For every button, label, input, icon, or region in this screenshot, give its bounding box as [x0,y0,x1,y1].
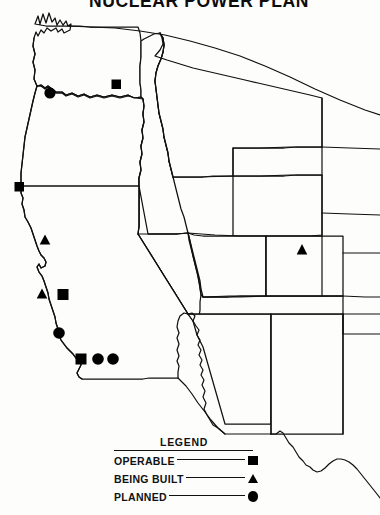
colorado-south-nm-north [188,296,343,314]
state-wyoming [233,175,322,236]
legend-row-planned: PLANNED [114,488,260,505]
legend-title: LEGEND [114,436,260,448]
legend-row-operable: OPERABLE [114,452,260,469]
legend: LEGEND OPERABLE BEING BUILT PLANNED [114,436,260,505]
legend-divider [114,450,253,451]
marker-planned [53,327,65,339]
state-oregon [21,86,144,186]
marker-operable [58,289,69,300]
legend-label-being-built: BEING BUILT [114,473,184,485]
circle-icon [246,490,260,504]
marker-planned [107,353,119,365]
legend-leader-line [186,477,245,478]
state-arizona [188,314,271,424]
marker-planned [44,87,55,98]
square-icon [246,454,260,468]
legend-row-being-built: BEING BUILT [114,470,260,487]
oklahoma-panhandle [343,314,380,334]
texas-rio-grande-border [271,431,380,498]
legend-leader-line [169,495,245,496]
marker-planned [92,353,104,365]
state-washington [33,13,141,98]
dakota-divider-lower [322,213,380,215]
marker-operable [112,80,122,90]
marker-being-built [37,289,48,299]
state-new-mexico [271,314,343,434]
dakota-divider-upper [322,147,380,149]
marker-operable [15,182,25,192]
legend-label-planned: PLANNED [114,491,167,503]
triangle-icon [246,472,260,486]
marker-operable [76,354,87,365]
legend-label-operable: OPERABLE [114,455,175,467]
legend-leader-line [177,459,245,460]
state-montana [155,33,322,177]
kansas-divider [343,296,380,297]
nuclear-power-plant-map-page: NUCLEAR POWER PLAN [0,0,380,515]
state-colorado [266,236,343,296]
